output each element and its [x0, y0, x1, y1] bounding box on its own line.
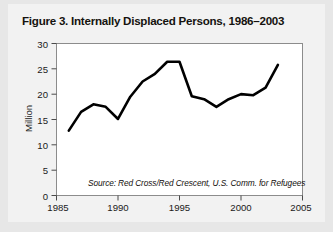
plot-background	[57, 44, 303, 196]
y-axis-label-0: 0	[30, 190, 48, 201]
x-axis-label-2005: 2005	[290, 202, 311, 213]
x-axis-label-1995: 1995	[169, 202, 190, 213]
y-axis-ticks	[52, 44, 57, 196]
x-axis-label-1985: 1985	[47, 202, 68, 213]
y-axis-label-5: 5	[30, 165, 48, 176]
y-axis-label-25: 25	[30, 63, 48, 74]
y-axis-title: Million	[23, 89, 34, 149]
x-axis-label-2000: 2000	[230, 202, 251, 213]
line-chart	[0, 0, 333, 232]
x-axis-ticks	[57, 196, 303, 201]
y-axis-label-30: 30	[30, 38, 48, 49]
x-axis-label-1990: 1990	[107, 202, 128, 213]
source-note: Source: Red Cross/Red Crescent, U.S. Com…	[88, 178, 305, 188]
